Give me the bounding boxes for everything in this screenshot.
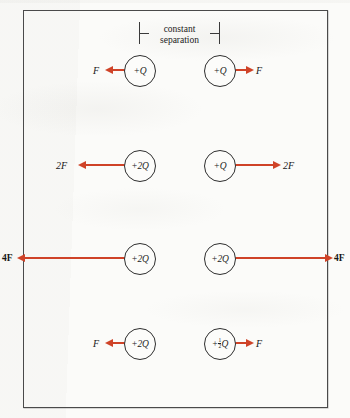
arrow-head bbox=[246, 339, 254, 347]
arrow-head bbox=[17, 254, 25, 262]
physics-figure-coulomb-forces: constant separation F +Q +Q F 2F +2Q +Q bbox=[0, 0, 350, 418]
charge-fraction: 12 bbox=[218, 338, 221, 350]
row-2-left-force-label: 2F bbox=[56, 160, 67, 171]
arrow-shaft bbox=[24, 257, 138, 259]
row-1-right-force-label: F bbox=[256, 65, 262, 76]
row-3-left-force-label: 4F bbox=[2, 253, 13, 263]
row-4-right-force-label: F bbox=[256, 338, 262, 349]
arrow-head bbox=[105, 66, 113, 74]
bracket-stub-left bbox=[139, 33, 149, 34]
arrow-head bbox=[246, 66, 254, 74]
row-4-left-charge: +2Q bbox=[124, 328, 156, 360]
bracket-label-line1: constant bbox=[164, 24, 196, 34]
row-1-left-charge: +Q bbox=[124, 55, 156, 87]
row-3-right-charge: +2Q bbox=[204, 243, 236, 275]
scan-bleedthrough-texture bbox=[0, 0, 350, 418]
arrow-head bbox=[273, 161, 281, 169]
row-1-right-charge: +Q bbox=[204, 55, 236, 87]
row-2-right-charge: +Q bbox=[204, 150, 236, 182]
charge-sign: + bbox=[212, 339, 218, 349]
bracket-label: constant separation bbox=[149, 24, 210, 46]
row-4-left-force-label: F bbox=[93, 338, 99, 349]
charge-symbol: Q bbox=[221, 339, 228, 349]
arrow-head bbox=[325, 254, 333, 262]
row-3-right-force-label: 4F bbox=[334, 253, 345, 263]
row-3-left-charge: +2Q bbox=[124, 243, 156, 275]
fraction-denominator: 2 bbox=[218, 343, 221, 350]
row-2-right-force-label: 2F bbox=[283, 160, 294, 171]
row-4-right-charge: +12Q bbox=[204, 328, 236, 360]
bracket-label-line2: separation bbox=[160, 35, 199, 45]
bracket-stub-right bbox=[210, 33, 220, 34]
row-2-left-charge: +2Q bbox=[124, 150, 156, 182]
row-1-left-force-label: F bbox=[93, 65, 99, 76]
figure-border-frame bbox=[23, 10, 328, 408]
arrow-head bbox=[78, 161, 86, 169]
arrow-head bbox=[105, 339, 113, 347]
